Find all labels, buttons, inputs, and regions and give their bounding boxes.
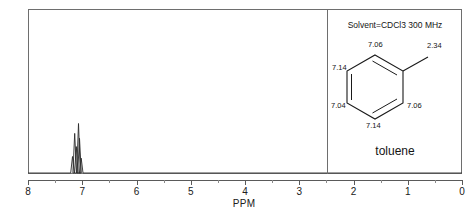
axis-tick-major bbox=[28, 180, 29, 185]
axis-tick-minor bbox=[218, 180, 219, 183]
structure-inset-panel: Solvent=CDCl3 300 MHz 7.14 7.06 2.34 7.0… bbox=[327, 9, 462, 174]
axis-tick-label: 8 bbox=[25, 186, 31, 197]
axis-tick-label: 7 bbox=[79, 186, 85, 197]
axis-tick-major bbox=[191, 180, 192, 185]
axis-title-ppm: PPM bbox=[233, 198, 256, 209]
axis-tick-major bbox=[137, 180, 138, 185]
shift-label-bottom: 7.14 bbox=[366, 121, 381, 130]
axis-tick-label: 3 bbox=[296, 186, 302, 197]
axis-tick-major bbox=[354, 180, 355, 185]
double-bond-bottom-right bbox=[373, 99, 398, 113]
axis-tick-label: 5 bbox=[188, 186, 194, 197]
toluene-structure-drawing: 7.14 7.06 2.34 7.04 7.14 7.06 bbox=[328, 35, 463, 133]
axis-tick-major bbox=[299, 180, 300, 185]
double-bond-top bbox=[373, 61, 398, 75]
axis-tick-minor bbox=[164, 180, 165, 183]
axis-tick-major bbox=[462, 180, 463, 185]
axis-tick-minor bbox=[272, 180, 273, 183]
axis-tick-major bbox=[408, 180, 409, 185]
shift-label-bottom-left: 7.04 bbox=[331, 101, 346, 110]
shift-label-methyl: 2.34 bbox=[427, 41, 442, 50]
axis-tick-minor bbox=[435, 180, 436, 183]
toluene-skeletal-svg bbox=[328, 35, 463, 133]
methyl-bond bbox=[403, 57, 428, 71]
axis-tick-label: 4 bbox=[242, 186, 248, 197]
shift-label-bottom-right: 7.06 bbox=[407, 101, 422, 110]
axis-tick-label: 2 bbox=[351, 186, 357, 197]
axis-tick-label: 6 bbox=[134, 186, 140, 197]
shift-label-top-left: 7.14 bbox=[332, 63, 347, 72]
compound-name-label: toluene bbox=[375, 144, 414, 158]
shift-label-top: 7.06 bbox=[368, 40, 383, 49]
axis-tick-major bbox=[82, 180, 83, 185]
axis-tick-minor bbox=[55, 180, 56, 183]
benzene-ring bbox=[347, 55, 403, 119]
solvent-conditions-label: Solvent=CDCl3 300 MHz bbox=[348, 20, 443, 30]
axis-tick-label: 0 bbox=[459, 186, 465, 197]
axis-tick-major bbox=[245, 180, 246, 185]
axis-tick-minor bbox=[326, 180, 327, 183]
axis-tick-label: 1 bbox=[405, 186, 411, 197]
axis-tick-minor bbox=[381, 180, 382, 183]
axis-tick-minor bbox=[109, 180, 110, 183]
